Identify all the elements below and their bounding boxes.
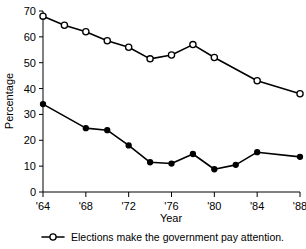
- y-tick-label: 40: [24, 83, 36, 95]
- x-tick-label: '72: [121, 200, 135, 212]
- data-point-marker: [169, 161, 174, 166]
- data-point-marker: [255, 150, 260, 155]
- data-point-marker: [212, 167, 217, 172]
- data-point-marker: [298, 154, 303, 159]
- data-point-marker: [105, 128, 110, 133]
- x-axis-tick-labels: '64'68'72'76'80'84'88: [36, 200, 306, 212]
- x-tick-label: '76: [164, 200, 178, 212]
- x-tick-label: '64: [36, 200, 50, 212]
- x-tick-label: '84: [250, 200, 264, 212]
- chart-legend: Elections make the government pay attent…: [42, 231, 284, 243]
- series-markers-group: [40, 13, 303, 172]
- line-chart: 010203040506070 '64'68'72'76'80'84'88 Pe…: [0, 0, 306, 249]
- x-axis-title: Year: [160, 212, 183, 224]
- data-point-marker: [168, 52, 174, 58]
- y-tick-label: 70: [24, 5, 36, 17]
- data-point-marker: [126, 143, 131, 148]
- data-point-marker: [41, 102, 46, 107]
- data-point-marker: [148, 160, 153, 165]
- data-point-marker: [83, 29, 89, 35]
- data-point-marker: [190, 151, 195, 156]
- y-tick-label: 50: [24, 57, 36, 69]
- legend-marker-icon: [50, 234, 56, 240]
- x-axis-tick-marks: [43, 192, 300, 197]
- y-axis-title: Percentage: [3, 73, 15, 129]
- data-point-marker: [190, 42, 196, 48]
- data-point-marker: [104, 38, 110, 44]
- data-point-marker: [126, 44, 132, 50]
- data-point-marker: [211, 54, 217, 60]
- data-point-marker: [83, 126, 88, 131]
- y-tick-label: 30: [24, 108, 36, 120]
- y-tick-label: 10: [24, 160, 36, 172]
- legend-label: Elections make the government pay attent…: [71, 231, 284, 243]
- x-tick-label: '68: [79, 200, 93, 212]
- y-tick-label: 20: [24, 134, 36, 146]
- data-point-marker: [233, 162, 238, 167]
- chart-figure: 010203040506070 '64'68'72'76'80'84'88 Pe…: [0, 0, 306, 249]
- y-tick-label: 0: [30, 186, 36, 198]
- series-lines-group: [43, 16, 300, 169]
- data-point-marker: [61, 22, 67, 28]
- x-tick-label: '88: [293, 200, 306, 212]
- data-point-marker: [40, 13, 46, 19]
- x-tick-label: '80: [207, 200, 221, 212]
- series-line-1: [43, 104, 300, 169]
- data-point-marker: [297, 91, 303, 97]
- y-axis-tick-labels: 010203040506070: [24, 5, 36, 198]
- y-tick-label: 60: [24, 31, 36, 43]
- data-point-marker: [147, 56, 153, 62]
- data-point-marker: [254, 78, 260, 84]
